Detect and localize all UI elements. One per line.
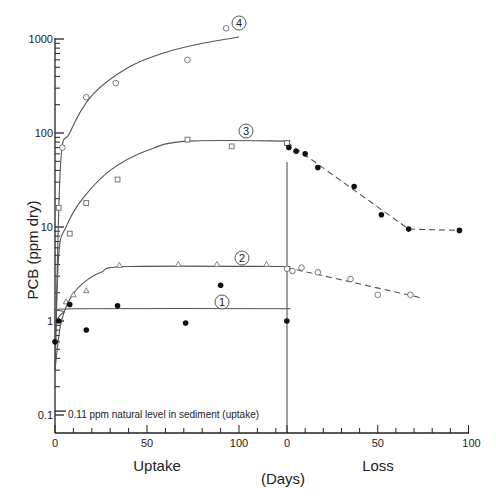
data-point-series-1 bbox=[183, 320, 189, 326]
loss-point-series-2 bbox=[348, 276, 354, 282]
data-point-series-3 bbox=[84, 201, 89, 206]
data-point-series-loss-from-3- bbox=[457, 228, 463, 234]
data-point-series-3 bbox=[229, 144, 234, 149]
data-point-series-4 bbox=[83, 94, 89, 100]
loss-point-series-2 bbox=[299, 265, 305, 271]
curve-label-text: 1 bbox=[219, 296, 225, 308]
fit-curve-2 bbox=[55, 266, 291, 370]
axes: 10001001010.1050100050100 bbox=[29, 33, 481, 449]
y-tick-label: 1 bbox=[47, 315, 53, 327]
loss-point-series-2 bbox=[290, 268, 296, 274]
curve-label-text: 4 bbox=[236, 17, 242, 29]
curve-label-text: 2 bbox=[239, 252, 245, 264]
data-point-series-2 bbox=[175, 261, 181, 266]
data-point-series-3 bbox=[185, 137, 190, 142]
y-axis-label: PCB (ppm dry) bbox=[24, 200, 41, 299]
data-point-series-loss-from-3- bbox=[302, 151, 308, 157]
curve-label-text: 3 bbox=[243, 125, 249, 137]
x-tick-label-uptake: 100 bbox=[230, 437, 248, 449]
y-tick-label: 0.1 bbox=[38, 409, 53, 421]
data-point-series-loss-from-3- bbox=[315, 165, 321, 171]
data-point-series-1 bbox=[218, 282, 224, 288]
curve-label-4: 4 bbox=[232, 16, 246, 30]
loss-point-series-2 bbox=[375, 292, 381, 298]
data-point-series-4 bbox=[60, 145, 66, 151]
fit-curve-4 bbox=[55, 37, 239, 370]
fit-curves bbox=[55, 37, 460, 370]
data-point-series-3 bbox=[56, 205, 61, 210]
data-point-series-4 bbox=[223, 25, 229, 31]
data-point-series-2 bbox=[264, 261, 270, 266]
loss-label: Loss bbox=[362, 457, 394, 474]
data-point-series-loss-from-3- bbox=[379, 212, 385, 218]
loss-fit-curve-2 bbox=[287, 268, 423, 299]
y-tick-label: 100 bbox=[35, 127, 53, 139]
data-points bbox=[52, 25, 462, 344]
loss-point-series-2 bbox=[284, 266, 290, 272]
x-tick-label-uptake: 0 bbox=[52, 437, 58, 449]
x-tick-label-loss: 50 bbox=[372, 437, 384, 449]
x-tick-label-loss: 0 bbox=[284, 437, 290, 449]
data-point-series-1 bbox=[56, 318, 62, 324]
curve-labels: 4321 bbox=[215, 16, 253, 309]
uptake-label: Uptake bbox=[133, 457, 181, 474]
data-point-series-2 bbox=[214, 261, 220, 266]
data-point-series-loss-from-3- bbox=[351, 184, 357, 190]
data-point-series-4 bbox=[113, 80, 119, 86]
data-point-series-1 bbox=[284, 318, 290, 324]
y-tick-label: 1000 bbox=[29, 33, 53, 45]
data-point-series-2 bbox=[83, 288, 89, 293]
annotation-sediment-level: 0.11 ppm natural level in sediment (upta… bbox=[68, 409, 259, 420]
curve-label-1: 1 bbox=[215, 295, 229, 309]
data-point-series-2 bbox=[117, 262, 123, 267]
data-point-series-loss-from-3- bbox=[286, 145, 292, 151]
data-point-series-1 bbox=[67, 302, 73, 308]
x-tick-label-uptake: 50 bbox=[141, 437, 153, 449]
data-point-series-1 bbox=[83, 327, 89, 333]
days-label: (Days) bbox=[261, 470, 305, 487]
data-point-series-1 bbox=[52, 339, 58, 345]
loss-point-series-2 bbox=[408, 292, 414, 298]
loss-point-series-2 bbox=[315, 269, 321, 275]
data-point-series-2 bbox=[71, 292, 77, 297]
data-point-series-1 bbox=[115, 303, 121, 309]
data-point-series-loss-from-3- bbox=[293, 148, 299, 154]
data-point-series-4 bbox=[185, 57, 191, 63]
pcb-chart: 10001001010.1050100050100 4321 PCB (ppm … bbox=[0, 0, 496, 502]
fit-curve-1 bbox=[55, 308, 291, 325]
curve-label-3: 3 bbox=[239, 124, 253, 138]
y-tick-label: 10 bbox=[41, 221, 53, 233]
data-point-series-loss-from-3- bbox=[406, 226, 412, 232]
data-point-series-3 bbox=[115, 177, 120, 182]
fit-curve-loss-from-3- bbox=[287, 142, 459, 230]
curve-label-2: 2 bbox=[235, 251, 249, 265]
data-point-series-3 bbox=[67, 231, 72, 236]
x-tick-label-loss: 100 bbox=[462, 437, 480, 449]
fit-curve-3 bbox=[55, 140, 291, 370]
